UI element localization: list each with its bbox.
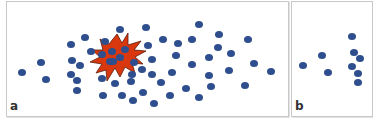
data-dot — [348, 63, 356, 70]
data-dot — [87, 48, 95, 55]
data-dot — [205, 54, 213, 61]
data-dot — [350, 49, 358, 56]
data-dot — [182, 85, 190, 92]
data-dot — [111, 80, 119, 87]
data-dot — [67, 71, 75, 78]
data-dot — [98, 75, 106, 82]
data-dot — [225, 67, 233, 74]
data-dot — [205, 72, 213, 79]
data-dot — [324, 69, 332, 76]
data-dot — [129, 97, 137, 104]
data-dot — [354, 79, 362, 86]
panel-a: a — [6, 1, 289, 117]
data-dot — [68, 57, 76, 64]
data-dot — [101, 38, 109, 45]
data-dot — [354, 70, 362, 77]
data-dot — [150, 100, 158, 107]
panel-label-a: a — [10, 100, 18, 112]
data-dot — [348, 33, 356, 40]
data-dot — [267, 68, 275, 75]
data-dot — [127, 78, 135, 85]
data-dot — [188, 61, 196, 68]
data-dot — [166, 92, 174, 99]
data-dot — [98, 51, 106, 58]
data-dot — [148, 71, 156, 78]
data-dot — [195, 94, 203, 101]
data-dot — [144, 42, 152, 49]
data-dot — [18, 69, 26, 76]
data-dot — [188, 36, 196, 43]
data-dot — [195, 21, 203, 28]
data-dot — [138, 66, 146, 73]
data-dot — [116, 54, 124, 61]
data-dot — [241, 82, 249, 89]
data-dot — [299, 62, 307, 69]
data-dot — [81, 34, 89, 41]
data-dot — [159, 36, 167, 43]
data-dot — [172, 52, 180, 59]
data-dot — [157, 79, 165, 86]
data-dot — [42, 76, 50, 83]
data-dot — [250, 60, 258, 67]
data-dot — [174, 40, 182, 47]
data-dot — [130, 59, 138, 66]
data-dot — [139, 89, 147, 96]
data-dot — [142, 24, 150, 31]
data-dot — [116, 26, 124, 33]
data-dot — [108, 48, 116, 55]
data-dot — [76, 62, 84, 69]
data-dot — [207, 83, 215, 90]
data-dot — [244, 36, 252, 43]
data-dot — [168, 69, 176, 76]
data-dot — [356, 55, 364, 62]
data-dot — [67, 41, 75, 48]
data-dot — [215, 31, 223, 38]
panel-label-b: b — [295, 100, 304, 112]
data-dot — [99, 92, 107, 99]
data-dot — [227, 50, 235, 57]
data-dot — [118, 92, 126, 99]
data-dot — [148, 56, 156, 63]
data-dot — [121, 46, 129, 53]
data-dot — [73, 77, 81, 84]
data-dot — [318, 52, 326, 59]
data-dot — [128, 71, 136, 78]
panel-b: b — [291, 1, 373, 117]
data-dot — [73, 87, 81, 94]
data-dot — [214, 44, 222, 51]
data-dot — [37, 59, 45, 66]
